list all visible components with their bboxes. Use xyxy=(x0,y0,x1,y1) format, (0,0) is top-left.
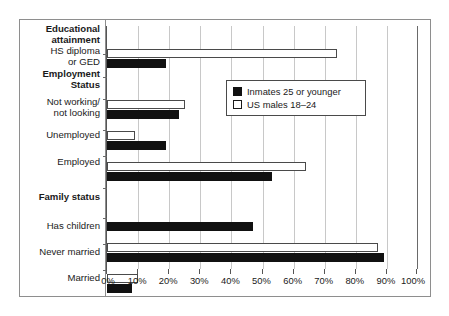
bar-us-males-never-married xyxy=(107,243,378,252)
x-tick-90 xyxy=(386,269,387,274)
x-axis-tick-marks xyxy=(106,269,417,274)
category-label-column: Educational attainment HS diploma or GED… xyxy=(20,20,106,296)
gridline-50 xyxy=(263,26,264,269)
bar-inmates-has-children xyxy=(107,222,253,231)
axis-tick-mark xyxy=(103,77,107,78)
category-label-unemployed: Unemployed xyxy=(19,130,100,141)
gridline-40 xyxy=(231,26,232,269)
group-header-family-status: Family status xyxy=(19,192,100,203)
x-axis-tick-labels: 0% 10% 20% 30% 40% 50% 60% 70% 80% 90% 1… xyxy=(106,275,417,289)
chart-figure: Educational attainment HS diploma or GED… xyxy=(19,19,431,297)
category-label-never-married: Never married xyxy=(19,247,100,258)
gridline-80 xyxy=(356,26,357,269)
group-header-employment-status: Employment Status xyxy=(19,69,100,90)
x-tick-30 xyxy=(199,269,200,274)
plot-region: 0% 10% 20% 30% 40% 50% 60% 70% 80% 90% 1… xyxy=(106,20,430,296)
chart-legend: Inmates 25 or younger US males 18–24 xyxy=(226,80,366,116)
x-tick-40 xyxy=(230,269,231,274)
x-tick-0 xyxy=(106,269,107,274)
bar-us-males-hs-diploma xyxy=(107,49,337,58)
axis-tick-mark xyxy=(103,218,107,219)
bar-inmates-hs-diploma xyxy=(107,59,166,68)
bar-inmates-never-married xyxy=(107,253,384,262)
gridline-60 xyxy=(294,26,295,269)
legend-label-us-males: US males 18–24 xyxy=(247,99,316,110)
axis-tick-mark xyxy=(103,156,107,157)
group-header-educational-attainment: Educational attainment xyxy=(19,24,100,45)
category-label-has-children: Has children xyxy=(19,221,100,232)
legend-label-inmates: Inmates 25 or younger xyxy=(247,86,341,97)
bar-us-males-not-working xyxy=(107,100,185,109)
x-tick-50 xyxy=(262,269,263,274)
gridline-70 xyxy=(325,26,326,269)
gridline-100 xyxy=(417,26,418,269)
legend-item-inmates: Inmates 25 or younger xyxy=(233,85,360,98)
gridline-90 xyxy=(387,26,388,269)
bar-inmates-not-working xyxy=(107,110,179,119)
outlined-square-icon xyxy=(233,100,242,109)
category-label-employed: Employed xyxy=(19,157,100,168)
category-label-not-working: Not working/ not looking xyxy=(19,97,100,118)
x-tick-20 xyxy=(168,269,169,274)
bar-us-males-unemployed xyxy=(107,131,135,140)
x-tick-80 xyxy=(355,269,356,274)
x-tick-70 xyxy=(324,269,325,274)
gridline-20 xyxy=(169,26,170,269)
bar-us-males-employed xyxy=(107,162,306,171)
legend-item-us-males: US males 18–24 xyxy=(233,98,360,111)
x-tick-60 xyxy=(293,269,294,274)
x-tick-100 xyxy=(416,269,417,274)
gridline-30 xyxy=(200,26,201,269)
axis-tick-mark xyxy=(103,188,107,189)
x-tick-label-100: 100% xyxy=(393,275,433,286)
bar-inmates-unemployed xyxy=(107,141,166,150)
filled-square-icon xyxy=(233,87,242,96)
x-tick-10 xyxy=(137,269,138,274)
plot-area xyxy=(106,26,417,269)
category-label-hs-diploma: HS diploma or GED xyxy=(19,46,100,67)
bar-inmates-employed xyxy=(107,172,272,181)
